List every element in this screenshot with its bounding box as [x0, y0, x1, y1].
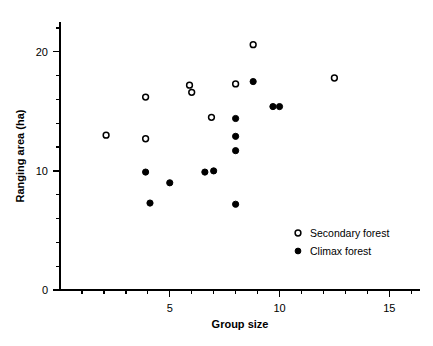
data-point: [233, 133, 239, 139]
data-point: [143, 169, 149, 175]
data-point: [270, 103, 276, 109]
x-tick-label: 15: [383, 302, 395, 314]
data-point: [167, 180, 173, 186]
scatter-chart-figure: 01020 51015 Ranging area (ha) Group size…: [0, 0, 433, 346]
data-point: [202, 169, 208, 175]
legend-entry-climax-forest: Climax forest: [295, 245, 371, 257]
data-point: [209, 114, 215, 120]
x-axis-tick-labels: 51015: [167, 302, 396, 314]
x-tick-label: 10: [273, 302, 285, 314]
legend-filled-circle-icon: [295, 248, 301, 254]
data-point: [233, 148, 239, 154]
data-point: [147, 200, 153, 206]
chart-legend: Secondary forest Climax forest: [295, 227, 389, 257]
data-point: [211, 168, 217, 174]
y-tick-label: 10: [36, 165, 48, 177]
series-secondary-forest-points: [103, 42, 337, 142]
data-point: [276, 103, 282, 109]
y-tick-label: 0: [42, 284, 48, 296]
data-point: [250, 42, 256, 48]
data-point: [233, 115, 239, 121]
series-climax-forest-points: [143, 78, 283, 207]
chart-canvas: 01020 51015 Ranging area (ha) Group size…: [0, 0, 433, 346]
x-axis-ticks: [82, 290, 411, 297]
data-point: [331, 75, 337, 81]
data-point: [250, 78, 256, 84]
y-axis-ticks: [53, 28, 60, 290]
x-axis-title: Group size: [212, 318, 269, 330]
data-point: [233, 201, 239, 207]
data-point: [143, 94, 149, 100]
data-point: [189, 89, 195, 95]
y-axis-tick-labels: 01020: [36, 46, 48, 296]
y-axis-title: Ranging area (ha): [14, 109, 26, 202]
x-tick-label: 5: [167, 302, 173, 314]
legend-open-circle-icon: [295, 230, 301, 236]
data-point: [187, 82, 193, 88]
data-point: [233, 81, 239, 87]
data-point: [143, 136, 149, 142]
legend-label-secondary-forest: Secondary forest: [310, 227, 389, 239]
legend-entry-secondary-forest: Secondary forest: [295, 227, 389, 239]
data-point: [103, 132, 109, 138]
y-tick-label: 20: [36, 46, 48, 58]
legend-label-climax-forest: Climax forest: [310, 245, 371, 257]
